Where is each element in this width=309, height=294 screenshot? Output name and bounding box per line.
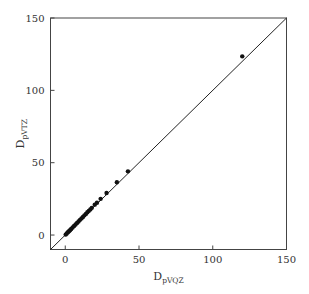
data-point	[98, 197, 102, 201]
scatter-chart: 050100150 050100150 DpVQZ DpVTZ	[0, 0, 309, 294]
data-point	[240, 54, 244, 58]
y-tick-label: 150	[25, 13, 44, 24]
x-tick-label: 150	[277, 254, 296, 265]
data-point	[115, 180, 119, 184]
y-tick-label: 100	[25, 85, 44, 96]
y-axis-label: DpVTZ	[14, 119, 29, 148]
x-tick-label: 0	[62, 254, 68, 265]
data-point	[126, 169, 130, 173]
x-tick-label: 100	[203, 254, 222, 265]
data-points	[63, 54, 244, 237]
x-axis-label: DpVQZ	[153, 270, 183, 285]
data-point	[104, 191, 108, 195]
x-tick-label: 50	[133, 254, 146, 265]
data-point	[95, 201, 99, 205]
x-axis-ticks: 050100150	[62, 246, 296, 265]
y-tick-label: 0	[38, 230, 44, 241]
y-tick-label: 50	[32, 157, 45, 168]
